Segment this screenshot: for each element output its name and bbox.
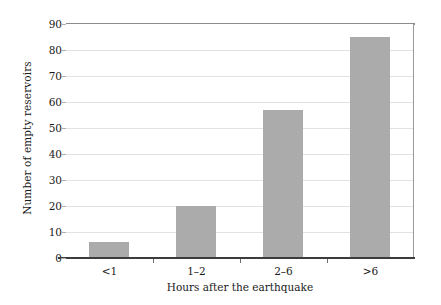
y-axis-tick-label: 30 bbox=[34, 175, 62, 185]
bars-layer bbox=[66, 24, 413, 258]
x-axis-tickmark bbox=[327, 259, 328, 263]
y-axis-tickmark bbox=[61, 50, 66, 51]
y-axis-tick-label: 40 bbox=[34, 149, 62, 159]
plot-area bbox=[66, 24, 414, 258]
bar-chart-figure: Number of empty reservoirs 0102030405060… bbox=[0, 0, 441, 305]
bar bbox=[350, 37, 390, 258]
y-axis-tickmark bbox=[61, 180, 66, 181]
y-axis-tickmark bbox=[61, 24, 66, 25]
y-axis-tickmark bbox=[61, 102, 66, 103]
x-axis-tick-label: 2–6 bbox=[240, 264, 327, 278]
y-axis-tickmark bbox=[61, 76, 66, 77]
x-axis-tick-label: 1–2 bbox=[153, 264, 240, 278]
y-axis-tick-label: 80 bbox=[34, 45, 62, 55]
y-axis-tickmark bbox=[61, 206, 66, 207]
y-axis-tick-label: 20 bbox=[34, 201, 62, 211]
bar bbox=[176, 206, 216, 258]
bar bbox=[263, 110, 303, 258]
x-axis-tick-label: <1 bbox=[66, 264, 153, 278]
y-axis-tick-labels: 0102030405060708090 bbox=[34, 24, 62, 258]
y-axis-tickmark bbox=[61, 258, 66, 259]
y-axis-tick-label: 90 bbox=[34, 19, 62, 29]
y-axis-tick-label: 60 bbox=[34, 97, 62, 107]
x-axis-line bbox=[58, 257, 415, 259]
bar bbox=[89, 242, 129, 258]
y-axis-tickmark bbox=[61, 128, 66, 129]
y-axis-tick-label: 70 bbox=[34, 71, 62, 81]
x-axis-tickmark bbox=[240, 259, 241, 263]
x-axis-tickmark bbox=[153, 259, 154, 263]
y-axis-tick-label: 10 bbox=[34, 227, 62, 237]
x-axis-tick-label: >6 bbox=[327, 264, 414, 278]
y-axis-tickmark bbox=[61, 154, 66, 155]
x-axis-title: Hours after the earthquake bbox=[66, 280, 414, 294]
y-axis-tick-label: 50 bbox=[34, 123, 62, 133]
y-axis-tickmark bbox=[61, 232, 66, 233]
x-axis-tick-labels: <11–22–6>6 bbox=[66, 264, 414, 280]
